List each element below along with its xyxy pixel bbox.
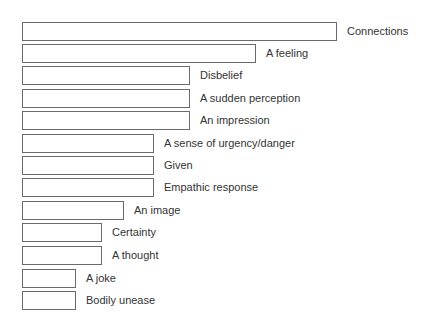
bar-row: A joke [22,268,116,288]
bar-label: An impression [200,110,270,130]
horizontal-bar-chart: ConnectionsA feelingDisbeliefA sudden pe… [0,0,430,327]
bar-label: A joke [86,268,116,288]
bar-label: Bodily unease [86,290,155,310]
bar [22,134,154,153]
bar-row: Bodily unease [22,290,155,310]
bar [22,201,124,220]
bar-row: Certainty [22,222,156,242]
bar-row: An image [22,200,180,220]
bar-row: Empathic response [22,177,258,197]
bar-label: A thought [112,245,159,265]
bar-row: Disbelief [22,65,242,85]
bar [22,156,154,175]
bar-row: Given [22,155,193,175]
bar-label: Connections [347,21,408,41]
bar [22,44,256,63]
bar-label: A sense of urgency/danger [164,133,295,153]
bar-label: Certainty [112,222,156,242]
bar [22,223,102,242]
bar [22,178,154,197]
bar-label: Given [164,155,193,175]
bar-label: Empathic response [164,177,258,197]
bar [22,66,190,85]
bar-label: A feeling [266,43,308,63]
bar-label: A sudden perception [200,88,300,108]
bar [22,89,190,108]
bar-label: Disbelief [200,65,242,85]
bar-row: A feeling [22,43,308,63]
bar [22,111,190,130]
bar [22,291,76,310]
bar-row: A sense of urgency/danger [22,133,295,153]
bar [22,269,76,288]
bar-label: An image [134,200,180,220]
bar [22,22,337,41]
bar-row: A thought [22,245,159,265]
bar-row: A sudden perception [22,88,300,108]
bar-row: Connections [22,21,408,41]
bar [22,246,102,265]
bar-row: An impression [22,110,270,130]
